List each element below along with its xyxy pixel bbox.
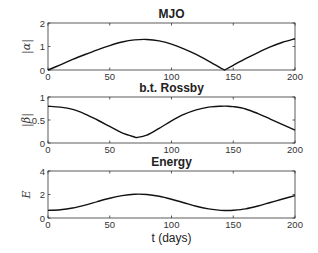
x-tick-label: 100 [164,219,180,230]
chart-figure: MJO050100150200012|α|b.t. Rossby05010015… [0,0,318,253]
y-tick-label: 1 [40,92,45,103]
x-axis-label: t (days) [151,231,191,245]
panel-title: Energy [151,155,192,169]
x-tick-label: 100 [164,144,180,155]
panel-title: b.t. Rossby [139,81,204,95]
y-tick-label: 0 [40,213,45,224]
x-tick-label: 50 [104,71,115,82]
x-tick-label: 0 [45,71,50,82]
axes-box-0 [48,23,295,70]
x-tick-label: 150 [225,71,241,82]
x-tick-label: 0 [45,219,50,230]
axes-box-2 [48,171,295,218]
y-axis-label: E [20,190,33,199]
x-tick-label: 0 [45,144,50,155]
y-tick-label: 0 [40,65,45,76]
y-tick-label: 1 [40,41,45,52]
panel-title: MJO [158,7,184,21]
y-axis-label: |α| [20,39,34,54]
x-tick-label: 50 [104,219,115,230]
y-tick-label: 0 [40,138,45,149]
x-tick-label: 200 [287,144,303,155]
y-tick-label: 4 [40,166,45,177]
y-tick-label: 2 [40,18,45,29]
x-tick-label: 150 [225,144,241,155]
y-tick-label: 2 [40,189,45,200]
y-axis-label: |β| [20,113,34,127]
x-tick-label: 50 [104,144,115,155]
x-tick-label: 200 [287,219,303,230]
axes-box-1 [48,97,295,143]
x-tick-label: 200 [287,71,303,82]
x-tick-label: 150 [225,219,241,230]
y-tick-label: 0.5 [32,115,45,126]
